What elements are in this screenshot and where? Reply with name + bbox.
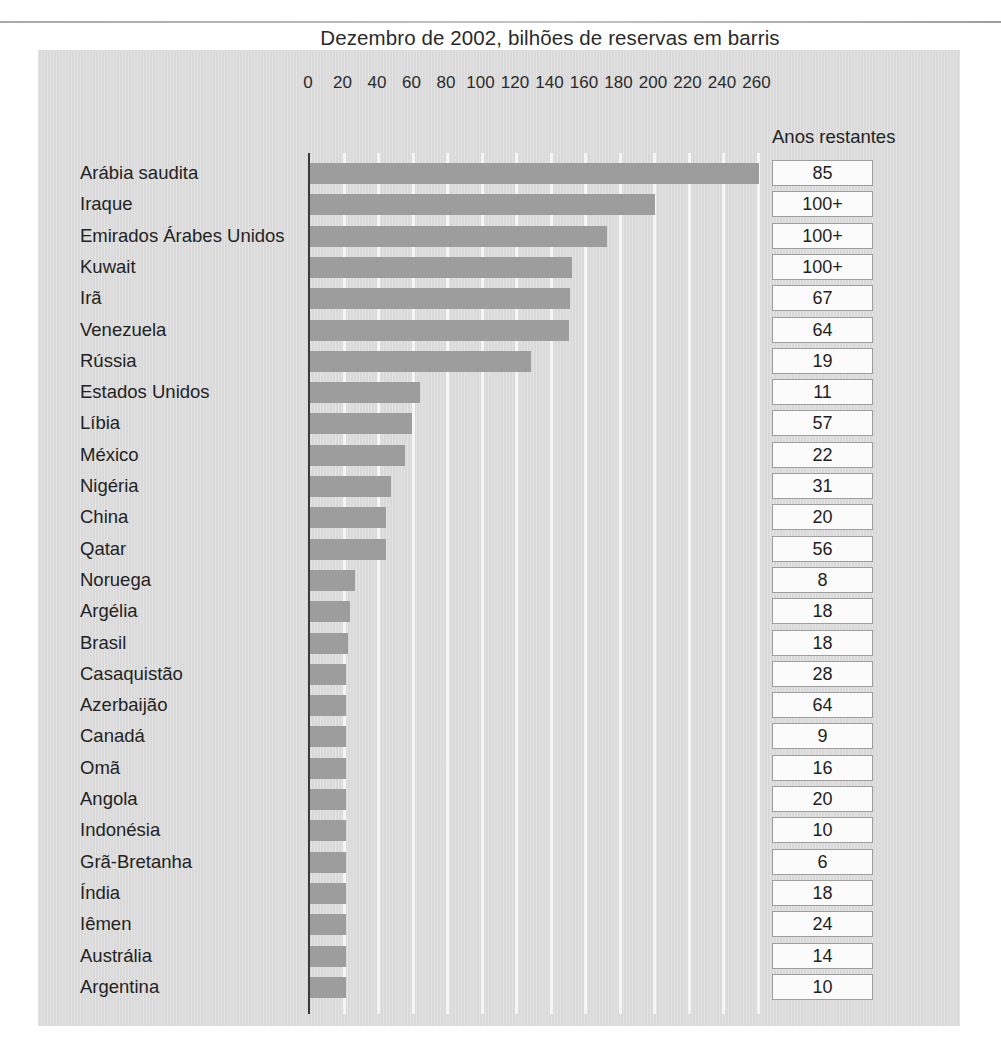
reserves-bar xyxy=(310,194,655,215)
chart-row: Grã-Bretanha6 xyxy=(0,852,1001,873)
chart-row: Irã67 xyxy=(0,288,1001,309)
chart-row: Canadá9 xyxy=(0,726,1001,747)
chart-row: Líbia57 xyxy=(0,413,1001,434)
years-remaining-value: 20 xyxy=(772,504,873,530)
reserves-bar xyxy=(310,288,570,309)
country-label: Argélia xyxy=(80,598,300,624)
country-label: China xyxy=(80,504,300,530)
country-label: Omã xyxy=(80,755,300,781)
country-label: Indonésia xyxy=(80,817,300,843)
years-remaining-value: 100+ xyxy=(772,191,873,217)
reserves-bar xyxy=(310,977,346,998)
chart-row: Índia18 xyxy=(0,883,1001,904)
reserves-bar xyxy=(310,852,346,873)
years-remaining-value: 57 xyxy=(772,410,873,436)
years-remaining-value: 64 xyxy=(772,317,873,343)
chart-row: Estados Unidos11 xyxy=(0,382,1001,403)
reserves-bar xyxy=(310,758,346,779)
reserves-bar xyxy=(310,695,346,716)
country-label: Irã xyxy=(80,285,300,311)
country-label: Canadá xyxy=(80,723,300,749)
country-label: Índia xyxy=(80,880,300,906)
years-remaining-value: 24 xyxy=(772,911,873,937)
years-remaining-value: 20 xyxy=(772,786,873,812)
reserves-bar xyxy=(310,570,355,591)
chart-row: Kuwait100+ xyxy=(0,257,1001,278)
chart-rows-container: Arábia saudita85Iraque100+Emirados Árabe… xyxy=(0,0,1001,1051)
reserves-bar xyxy=(310,163,759,184)
reserves-bar xyxy=(310,445,405,466)
reserves-bar xyxy=(310,633,348,654)
years-remaining-value: 18 xyxy=(772,880,873,906)
years-remaining-value: 14 xyxy=(772,943,873,969)
reserves-bar xyxy=(310,726,346,747)
chart-row: Austrália14 xyxy=(0,946,1001,967)
reserves-bar xyxy=(310,413,412,434)
chart-row: Qatar56 xyxy=(0,539,1001,560)
reserves-bar xyxy=(310,476,391,497)
chart-row: Arábia saudita85 xyxy=(0,163,1001,184)
chart-row: Indonésia10 xyxy=(0,820,1001,841)
reserves-bar xyxy=(310,507,386,528)
country-label: Austrália xyxy=(80,943,300,969)
country-label: Venezuela xyxy=(80,317,300,343)
country-label: Estados Unidos xyxy=(80,379,300,405)
country-label: Brasil xyxy=(80,630,300,656)
years-remaining-value: 100+ xyxy=(772,254,873,280)
years-remaining-value: 6 xyxy=(772,849,873,875)
reserves-bar xyxy=(310,226,607,247)
chart-row: China20 xyxy=(0,507,1001,528)
years-remaining-value: 18 xyxy=(772,598,873,624)
chart-row: Venezuela64 xyxy=(0,320,1001,341)
years-remaining-value: 19 xyxy=(772,348,873,374)
country-label: Casaquistão xyxy=(80,661,300,687)
country-label: Kuwait xyxy=(80,254,300,280)
chart-row: Omã16 xyxy=(0,758,1001,779)
years-remaining-value: 31 xyxy=(772,473,873,499)
years-remaining-value: 100+ xyxy=(772,223,873,249)
years-remaining-value: 10 xyxy=(772,974,873,1000)
reserves-bar xyxy=(310,351,531,372)
reserves-bar xyxy=(310,382,420,403)
chart-row: Argélia18 xyxy=(0,601,1001,622)
country-label: Noruega xyxy=(80,567,300,593)
chart-row: Brasil18 xyxy=(0,633,1001,654)
years-remaining-value: 64 xyxy=(772,692,873,718)
years-remaining-value: 67 xyxy=(772,285,873,311)
chart-row: Nigéria31 xyxy=(0,476,1001,497)
chart-row: Noruega8 xyxy=(0,570,1001,591)
country-label: Grã-Bretanha xyxy=(80,849,300,875)
reserves-bar xyxy=(310,257,572,278)
country-label: Arábia saudita xyxy=(80,160,300,186)
reserves-bar xyxy=(310,789,346,810)
reserves-bar xyxy=(310,914,346,935)
years-remaining-value: 10 xyxy=(772,817,873,843)
chart-row: Rússia19 xyxy=(0,351,1001,372)
chart-row: Casaquistão28 xyxy=(0,664,1001,685)
country-label: Líbia xyxy=(80,410,300,436)
years-remaining-value: 8 xyxy=(772,567,873,593)
chart-row: Iraque100+ xyxy=(0,194,1001,215)
chart-row: Angola20 xyxy=(0,789,1001,810)
country-label: Argentina xyxy=(80,974,300,1000)
years-remaining-value: 11 xyxy=(772,379,873,405)
reserves-bar xyxy=(310,946,346,967)
country-label: Nigéria xyxy=(80,473,300,499)
years-remaining-value: 16 xyxy=(772,755,873,781)
country-label: Rússia xyxy=(80,348,300,374)
country-label: Qatar xyxy=(80,536,300,562)
chart-row: México22 xyxy=(0,445,1001,466)
chart-row: Iêmen24 xyxy=(0,914,1001,935)
country-label: Angola xyxy=(80,786,300,812)
chart-row: Argentina10 xyxy=(0,977,1001,998)
reserves-bar xyxy=(310,664,346,685)
years-remaining-value: 85 xyxy=(772,160,873,186)
country-label: México xyxy=(80,442,300,468)
country-label: Iêmen xyxy=(80,911,300,937)
reserves-bar xyxy=(310,320,569,341)
reserves-bar xyxy=(310,601,350,622)
years-remaining-value: 28 xyxy=(772,661,873,687)
years-remaining-value: 18 xyxy=(772,630,873,656)
reserves-bar xyxy=(310,539,386,560)
years-remaining-value: 9 xyxy=(772,723,873,749)
